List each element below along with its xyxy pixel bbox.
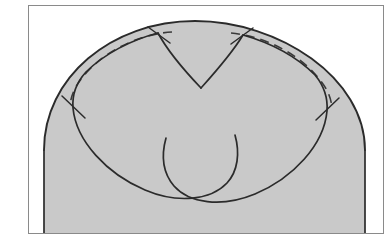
figure-root: [0, 0, 389, 244]
valve-diagram-svg: [0, 0, 389, 244]
